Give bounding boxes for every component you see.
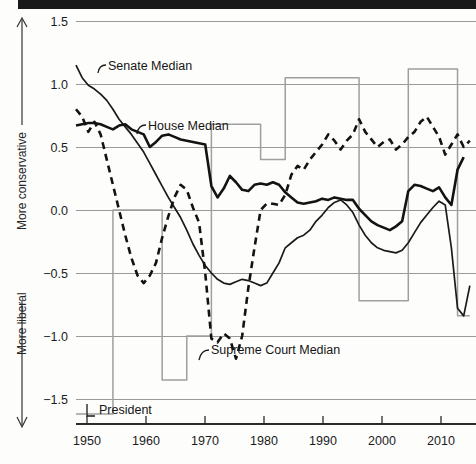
senate-leader-line xyxy=(98,65,106,73)
annotation-house: House Median xyxy=(137,119,229,134)
y-tick-neg1p0: −1.0 xyxy=(43,330,68,344)
label-supreme-court-median: Supreme Court Median xyxy=(211,343,340,357)
chart-page: More conservative More liberal 1.5 1.0 xyxy=(0,0,476,464)
x-tick-label-2010: 2010 xyxy=(427,434,455,448)
chart-svg: More conservative More liberal 1.5 1.0 xyxy=(0,0,476,464)
annotation-president: President xyxy=(87,403,152,417)
x-tick-label-1980: 1980 xyxy=(250,434,278,448)
y-tick-0p5: 0.5 xyxy=(51,141,68,155)
y-tick-0p0: 0.0 xyxy=(51,204,68,218)
annotation-senate: Senate Median xyxy=(98,59,192,73)
y-tick-neg1p5: −1.5 xyxy=(43,393,68,407)
data-series-group xyxy=(76,65,470,414)
y-tick-1p0: 1.0 xyxy=(51,78,68,92)
x-tick-label-1950: 1950 xyxy=(73,434,101,448)
axis-title-more-conservative: More conservative xyxy=(15,132,29,230)
x-tick-label-1970: 1970 xyxy=(191,434,219,448)
axis-title-more-liberal: More liberal xyxy=(15,292,29,355)
x-tick-labels: 1950 1960 1970 1980 1990 2000 2010 xyxy=(73,434,455,448)
x-tick-label-1960: 1960 xyxy=(132,434,160,448)
label-house-median: House Median xyxy=(148,119,229,133)
series-senate-median xyxy=(76,65,470,316)
label-president: President xyxy=(99,403,152,417)
supreme-court-leader-line xyxy=(199,350,209,360)
label-senate-median: Senate Median xyxy=(108,59,192,73)
x-axis xyxy=(76,416,476,424)
x-tick-label-2000: 2000 xyxy=(368,434,396,448)
series-president xyxy=(76,69,470,414)
y-axis-direction-lower: More liberal xyxy=(15,292,29,427)
political-ideology-chart: More conservative More liberal 1.5 1.0 xyxy=(0,0,476,464)
x-tick-label-1990: 1990 xyxy=(309,434,337,448)
y-tick-neg0p5: −0.5 xyxy=(43,267,68,281)
y-axis-direction-upper: More conservative xyxy=(15,18,29,230)
y-tick-labels: 1.5 1.0 0.5 0.0 −0.5 −1.0 −1.5 xyxy=(43,15,68,407)
y-tick-1p5: 1.5 xyxy=(51,15,68,29)
annotation-supreme-court: Supreme Court Median xyxy=(199,343,340,360)
